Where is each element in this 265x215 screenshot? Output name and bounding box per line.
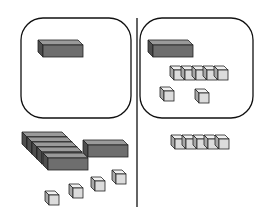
base-ten-blocks-diagram	[0, 0, 265, 215]
right-five-units	[171, 135, 229, 149]
right-box-single-units	[160, 87, 209, 103]
left-box	[21, 18, 131, 118]
right-box-five-units	[170, 66, 228, 80]
left-box-ten-rod	[38, 40, 83, 57]
left-five-ten-rods	[22, 132, 88, 170]
left-single-ten-rod	[83, 140, 128, 157]
right-box-ten-rod	[148, 40, 193, 57]
left-four-units	[45, 170, 126, 205]
